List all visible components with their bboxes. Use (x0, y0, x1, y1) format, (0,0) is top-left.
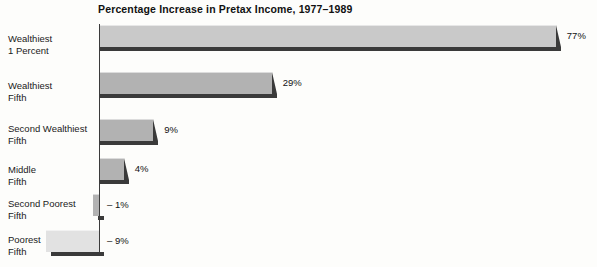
bar-2-body (100, 72, 272, 94)
category-label-line2: Fifth (8, 176, 96, 188)
bar-4-value-label: 4% (135, 163, 149, 174)
category-label-3: Second WealthiestFifth (8, 123, 96, 146)
bar-1-shadow (100, 47, 561, 51)
category-label-4: MiddleFifth (8, 164, 96, 187)
bar-5-shadow (98, 216, 104, 220)
category-label-line2: Fifth (8, 92, 96, 104)
category-label-line2: Fifth (8, 210, 96, 222)
bar-3-value-label: 9% (164, 124, 178, 135)
bar-4-cap (124, 158, 129, 180)
bar-3-cap (153, 119, 158, 141)
bar-top-highlight (93, 194, 99, 195)
bar-top-highlight (46, 230, 99, 231)
bar-4-body (100, 158, 124, 180)
category-label-5: Second PoorestFifth (8, 198, 96, 221)
bar-2-cap (272, 72, 277, 94)
category-label-line2: 1 Percent (8, 45, 96, 57)
bar-top-highlight (100, 72, 272, 73)
category-label-line1: Second Poorest (8, 198, 76, 209)
category-label-line1: Poorest (8, 234, 41, 245)
bar-6-value-label: – 9% (107, 235, 129, 246)
bar-top-highlight (100, 25, 556, 26)
bar-1-cap (556, 25, 561, 47)
category-label-line1: Wealthiest (8, 33, 52, 44)
category-label-line1: Second Wealthiest (8, 123, 87, 134)
category-label-line2: Fifth (8, 246, 96, 258)
bar-3-body (100, 119, 153, 141)
bar-chart-figure: Percentage Increase in Pretax Income, 19… (0, 0, 597, 267)
bar-1-body (100, 25, 556, 47)
category-label-1: Wealthiest1 Percent (8, 33, 96, 56)
bar-1-value-label: 77% (567, 30, 586, 41)
chart-title: Percentage Increase in Pretax Income, 19… (98, 3, 353, 15)
category-label-line1: Middle (8, 164, 36, 175)
bar-5-value-label: – 1% (107, 199, 129, 210)
category-label-2: WealthiestFifth (8, 80, 96, 103)
bar-top-highlight (100, 119, 153, 120)
category-label-line2: Fifth (8, 135, 96, 147)
category-label-6: PoorestFifth (8, 234, 96, 257)
category-label-line1: Wealthiest (8, 80, 52, 91)
bar-2-value-label: 29% (283, 77, 302, 88)
bar-4-shadow (100, 180, 129, 184)
plot-area: 77%29%9%4%– 1%– 9% Wealthiest1 PercentWe… (0, 22, 597, 257)
bar-2-shadow (100, 94, 277, 98)
bar-3-shadow (100, 141, 158, 145)
bar-top-highlight (100, 158, 124, 159)
